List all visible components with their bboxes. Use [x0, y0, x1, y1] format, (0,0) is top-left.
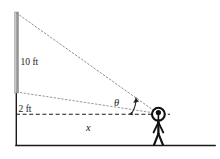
angle-arc-arrow-icon	[129, 97, 138, 115]
sight-line-lower	[17, 92, 159, 114]
elevation-diagram: 10 ft 2 ft x θ	[0, 0, 220, 159]
eye-height-label: 2 ft	[19, 104, 32, 114]
stick-figure-person-icon	[152, 108, 165, 145]
figure-container: 10 ft 2 ft x θ	[0, 0, 220, 159]
distance-label: x	[85, 122, 91, 133]
angle-label: θ	[114, 97, 119, 108]
vertical-pole-icon	[14, 12, 18, 93]
pole-height-label: 10 ft	[21, 57, 39, 67]
